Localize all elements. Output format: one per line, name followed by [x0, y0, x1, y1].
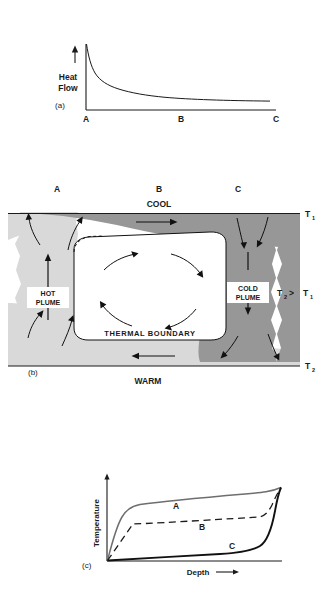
figure-root: Heat Flow (a) A B C [0, 0, 329, 610]
cold-plume-label-line2: PLUME [236, 294, 261, 301]
T2-bottom-subscript: 2 [312, 367, 315, 373]
panel-c-label-c: C [229, 541, 235, 551]
panel-c-curve-a [108, 488, 282, 561]
panel-c-xlabel: Depth [187, 568, 210, 577]
label-T2-bottom: T 2 [305, 361, 315, 373]
panel-c-temperature-depth: A B C Temperature Depth (c) [0, 415, 329, 610]
panel-b-svg: A B C COOL WARM T 1 T 2 HOT PLUME [0, 170, 329, 415]
inequality-right-symbol: T [303, 288, 309, 298]
panel-c-tag: (c) [82, 561, 92, 570]
heat-flow-direction-arrow-icon [72, 46, 78, 64]
panel-a-heat-flow: Heat Flow (a) A B C [0, 0, 329, 170]
inequality-right-subscript: 1 [310, 294, 313, 300]
inequality-left-subscript: 2 [284, 294, 287, 300]
depth-axis-arrow-icon [216, 569, 239, 574]
cool-surface-label: COOL [147, 199, 172, 209]
panel-a-tag: (a) [55, 101, 65, 110]
panel-c-label-a: A [173, 501, 179, 511]
hot-plume-label-line2: PLUME [36, 299, 61, 306]
hot-plume-label-line1: HOT [41, 290, 57, 297]
cold-plume-label-line1: COLD [238, 285, 258, 292]
temperature-axis-arrow-icon [104, 474, 109, 484]
panel-a-ylabel-line2: Flow [58, 83, 78, 93]
panel-a-xtick-b: B [178, 114, 184, 124]
label-T1-top: T 1 [305, 209, 315, 221]
panel-a-xtick-c: C [273, 114, 279, 124]
panel-a-heat-flow-curve [87, 44, 271, 101]
convection-cell-box [74, 232, 226, 340]
thermal-boundary-label: THERMAL BOUNDARY [104, 329, 195, 338]
panel-b-tag: (b) [28, 368, 38, 377]
T1-top-symbol: T [305, 209, 311, 219]
panel-b-convection-cell: A B C COOL WARM T 1 T 2 HOT PLUME [0, 170, 329, 415]
inequality-left-symbol: T [277, 288, 283, 298]
panel-b-top-label-a: A [54, 184, 60, 194]
panel-b-top-label-c: C [235, 184, 241, 194]
panel-a-ylabel-line1: Heat [59, 72, 78, 82]
hot-plume-label: HOT PLUME [27, 287, 69, 308]
panel-a-xtick-a: A [83, 114, 89, 124]
panel-c-svg: A B C Temperature Depth (c) [0, 415, 329, 610]
panel-a-svg: Heat Flow (a) A B C [0, 0, 329, 170]
warm-surface-label: WARM [135, 376, 162, 386]
panel-b-top-label-b: B [156, 184, 162, 194]
cold-plume-label: COLD PLUME [227, 282, 269, 303]
inequality-operator: > [289, 288, 294, 298]
panel-c-label-b: B [199, 522, 205, 532]
T2-bottom-symbol: T [305, 361, 311, 371]
T1-top-subscript: 1 [312, 215, 315, 221]
panel-c-ylabel: Temperature [92, 499, 101, 547]
